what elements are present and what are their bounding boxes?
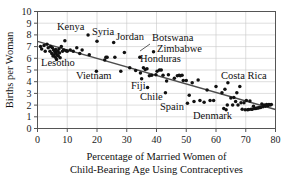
data-point xyxy=(42,44,46,48)
data-point xyxy=(235,91,239,95)
data-point xyxy=(164,91,168,95)
y-axis-tick-label: 5 xyxy=(27,64,32,75)
x-axis-tick-label: 40 xyxy=(152,134,162,145)
country-label-syria: Syria xyxy=(92,26,115,37)
x-axis-tick-label: 10 xyxy=(62,134,72,145)
data-point xyxy=(150,74,154,78)
x-axis-tick-label: 60 xyxy=(211,134,221,145)
data-point xyxy=(139,71,143,75)
country-label-kenya: Kenya xyxy=(57,21,85,32)
data-point xyxy=(167,73,171,77)
data-point xyxy=(78,52,82,56)
data-point xyxy=(119,69,123,73)
data-point xyxy=(208,99,212,103)
data-point xyxy=(245,99,249,103)
country-label-spain: Spain xyxy=(160,101,185,112)
data-point xyxy=(186,102,190,106)
data-point xyxy=(40,47,44,51)
data-point xyxy=(80,48,84,52)
country-label-jordan: Jordan xyxy=(116,31,145,42)
data-point xyxy=(226,81,230,85)
x-axis-tick-label: 0 xyxy=(35,134,40,145)
data-point xyxy=(43,50,47,54)
data-point xyxy=(45,43,49,47)
country-label-vietnam: Vietnam xyxy=(76,70,112,81)
country-label-botswana: Botswana xyxy=(152,32,194,43)
x-axis-tick-label: 50 xyxy=(181,134,191,145)
data-point xyxy=(68,48,72,52)
data-point xyxy=(190,81,194,85)
data-point xyxy=(123,51,127,55)
data-point xyxy=(128,66,132,70)
y-axis-tick-label: 10 xyxy=(22,6,32,17)
data-point xyxy=(63,39,67,43)
x-axis-tick-label: 30 xyxy=(122,134,132,145)
country-label-lesotho: Lesotho xyxy=(41,57,75,68)
data-point xyxy=(161,74,165,78)
x-axis-title-line1: Percentage of Married Women of xyxy=(86,151,227,162)
data-point xyxy=(71,50,75,54)
data-point xyxy=(226,103,230,107)
data-point xyxy=(60,45,64,49)
data-point xyxy=(160,68,164,72)
data-point xyxy=(229,96,233,100)
x-axis-tick-label: 80 xyxy=(271,134,281,145)
data-point xyxy=(248,99,252,103)
data-point xyxy=(202,100,206,104)
x-axis-tick-label: 70 xyxy=(241,134,251,145)
y-axis-tick-label: 8 xyxy=(27,29,32,40)
data-point xyxy=(192,100,196,104)
y-axis-tick-label: 2 xyxy=(27,100,32,111)
data-point xyxy=(165,79,169,83)
data-point xyxy=(112,41,116,45)
data-point xyxy=(180,74,184,78)
y-axis-tick-label: 7 xyxy=(27,41,32,52)
x-axis-title-line2: Child-Bearing Age Using Contraceptives xyxy=(70,164,243,175)
data-point xyxy=(231,103,235,107)
country-label-fiji: Fiji xyxy=(131,80,146,91)
data-point xyxy=(240,107,244,111)
chart-canvas: 01020304050607080012345678910KenyaSyriaJ… xyxy=(0,0,283,178)
data-point xyxy=(75,46,79,50)
data-point xyxy=(187,93,191,97)
data-point xyxy=(236,103,240,107)
data-point xyxy=(145,67,149,71)
country-label-denmark: Denmark xyxy=(193,110,233,121)
data-point xyxy=(185,79,189,83)
data-point xyxy=(270,103,274,107)
data-point xyxy=(232,96,236,100)
data-point xyxy=(105,55,109,59)
data-point xyxy=(205,88,209,92)
y-axis-tick-label: 9 xyxy=(27,18,32,29)
data-point xyxy=(220,91,224,95)
data-point xyxy=(198,99,202,103)
country-label-costa-rica: Costa Rica xyxy=(221,70,267,81)
data-point xyxy=(86,33,90,37)
data-point xyxy=(154,73,158,77)
scatter-chart-figure: 01020304050607080012345678910KenyaSyriaJ… xyxy=(0,0,283,178)
y-axis-tick-label: 4 xyxy=(27,76,32,87)
data-point xyxy=(238,85,242,89)
y-axis-tick-label: 0 xyxy=(27,123,32,134)
x-axis-tick-label: 20 xyxy=(92,134,102,145)
data-point xyxy=(95,40,99,44)
annotation-leader-line xyxy=(140,44,150,51)
y-axis-tick-label: 3 xyxy=(27,88,32,99)
data-point xyxy=(173,76,177,80)
data-point xyxy=(223,88,227,92)
data-point xyxy=(234,100,238,104)
y-axis-tick-label: 1 xyxy=(27,111,32,122)
data-point xyxy=(214,85,218,89)
data-point xyxy=(196,78,200,82)
data-point xyxy=(146,86,150,90)
data-point xyxy=(66,50,70,54)
data-point xyxy=(212,99,216,103)
country-label-honduras: Honduras xyxy=(140,53,181,64)
data-point xyxy=(134,69,138,73)
y-axis-title: Births per Woman xyxy=(4,31,15,108)
data-point xyxy=(88,53,92,57)
data-point xyxy=(113,55,117,59)
data-point xyxy=(58,51,62,55)
y-axis-tick-label: 6 xyxy=(27,53,32,64)
